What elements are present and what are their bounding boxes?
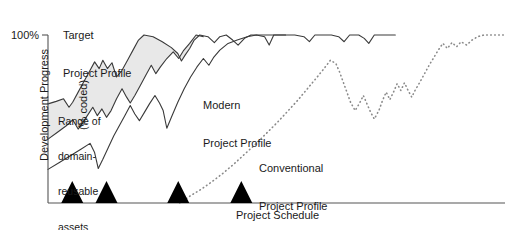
milestone-triangle-4 — [230, 181, 252, 203]
annotation-conventional-line-2: Project Profile — [259, 200, 327, 213]
annotation-target-line-1: Target — [63, 29, 131, 42]
annotation-conventional-line-1: Conventional — [259, 162, 327, 175]
annotation-modern-line-1: Modern — [203, 99, 271, 112]
annotation-band-line-4: assets — [58, 222, 101, 230]
annotation-range-of-domain-reusable-assets: Range of domain- reusable assets — [58, 92, 101, 230]
annotation-band-line-3: reusable — [58, 186, 101, 198]
annotation-conventional-project-profile: Conventional Project Profile — [259, 137, 327, 230]
milestone-triangle-3 — [167, 181, 189, 203]
chart-figure: 100% Development Progress (% coded) Proj… — [0, 0, 516, 230]
annotation-target-line-2: Project Profile — [63, 67, 131, 80]
y-axis-title-line-1: Development Progress — [38, 25, 51, 185]
annotation-band-line-1: Range of — [58, 116, 101, 128]
annotation-target-project-profile: Target Project Profile — [63, 4, 131, 104]
annotation-band-line-2: domain- — [58, 151, 101, 163]
